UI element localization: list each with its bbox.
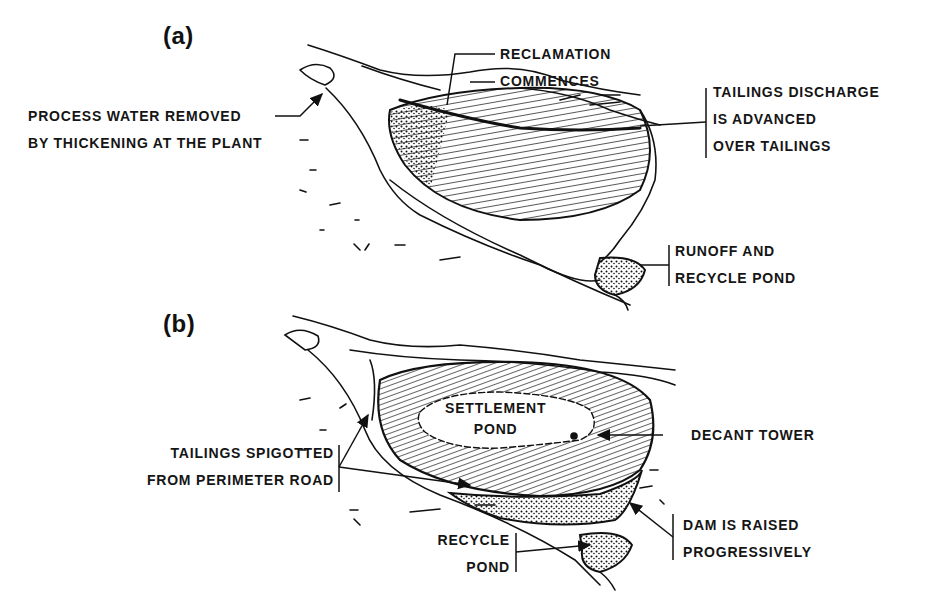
label-process-water-removed: PROCESS WATER REMOVED BY THICKENING AT T…: [28, 103, 262, 157]
label-dam-raised-progressively: DAM IS RAISED PROGRESSIVELY: [683, 512, 812, 566]
label-tailings-discharge-advanced: TAILINGS DISCHARGE IS ADVANCED OVER TAIL…: [713, 79, 880, 160]
label-runoff-recycle-pond: RUNOFF AND RECYCLE POND: [675, 238, 796, 292]
panel-b-label: (b): [163, 310, 195, 338]
label-settlement-pond: SETTLEMENT POND: [445, 398, 546, 440]
label-decant-tower: DECANT TOWER: [691, 422, 815, 449]
label-tailings-spigotted: TAILINGS SPIGOTTED FROM PERIMETER ROAD: [147, 440, 334, 494]
label-recycle-pond: RECYCLE POND: [438, 527, 511, 581]
panel-a-label: (a): [163, 22, 194, 50]
label-reclamation-commences: RECLAMATION COMMENCES: [500, 41, 611, 95]
